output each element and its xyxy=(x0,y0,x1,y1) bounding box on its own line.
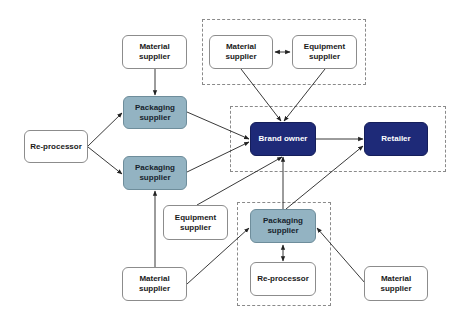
node-re-processor-left: Re-processor xyxy=(24,130,88,163)
node-label: Material supplier xyxy=(380,274,411,294)
node-material-supplier-top-left: Material supplier xyxy=(122,35,187,69)
node-label: Material supplier xyxy=(139,274,170,294)
node-retailer: Retailer xyxy=(364,122,428,156)
supply-chain-diagram: Material supplier Packaging supplier Re-… xyxy=(0,0,466,317)
node-packaging-supplier-2: Packaging supplier xyxy=(123,156,187,190)
node-label: Retailer xyxy=(381,134,410,144)
node-label: Packaging supplier xyxy=(263,216,303,236)
node-label: Re-processor xyxy=(30,142,82,152)
node-packaging-supplier-3: Packaging supplier xyxy=(250,209,316,243)
node-label: Re-processor xyxy=(257,274,309,284)
edge-material-top-to-brand xyxy=(241,69,281,121)
node-packaging-supplier-1: Packaging supplier xyxy=(123,96,187,129)
node-equipment-supplier-mid: Equipment supplier xyxy=(163,205,228,240)
edge-packaging-2-to-brand xyxy=(187,142,249,172)
edge-reprocessor-to-packaging-2 xyxy=(88,147,122,174)
node-equipment-supplier-top-group: Equipment supplier xyxy=(292,35,357,69)
node-brand-owner: Brand owner xyxy=(250,122,316,156)
node-label: Material supplier xyxy=(139,42,170,62)
edge-packaging-1-to-brand xyxy=(187,112,249,139)
node-label: Equipment supplier xyxy=(175,213,216,233)
node-material-supplier-top-group: Material supplier xyxy=(209,35,273,69)
edge-equipment-mid-to-brand xyxy=(197,157,282,205)
node-label: Packaging supplier xyxy=(135,103,175,123)
node-label: Material supplier xyxy=(225,42,256,62)
edge-reprocessor-to-packaging-1 xyxy=(88,113,122,146)
node-material-supplier-bottom-right: Material supplier xyxy=(364,266,428,301)
edge-material-br-to-packaging-3 xyxy=(317,228,365,283)
node-material-supplier-bottom-left: Material supplier xyxy=(122,267,187,301)
node-re-processor-bottom: Re-processor xyxy=(250,262,316,296)
node-label: Brand owner xyxy=(259,134,308,144)
edge-equipment-top-to-brand xyxy=(284,69,325,121)
node-label: Equipment supplier xyxy=(304,42,345,62)
node-label: Packaging supplier xyxy=(135,163,175,183)
